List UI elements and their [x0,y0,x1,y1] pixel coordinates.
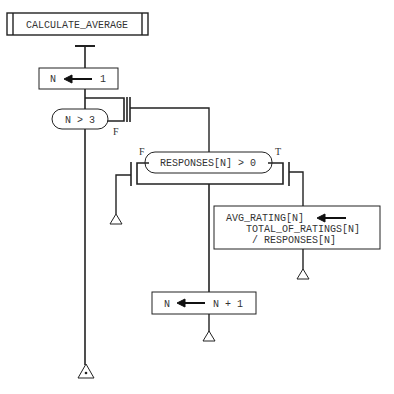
title-text: CALCULATE_AVERAGE [26,20,128,31]
branch-false-label: F [139,146,145,157]
branch-true-label: T [275,146,281,157]
loop-condition-text: N > 3 [65,115,95,126]
avg-rhs-line1: TOTAL_OF_RATINGS[N] [246,224,360,235]
init-lhs: N [50,74,56,85]
loop-body-end-triangle [203,331,215,341]
branch-condition-text: RESPONSES[N] > 0 [160,158,256,169]
flowchart: CALCULATE_AVERAGE N 1 N > 3 F RESPONSES[… [0,0,394,394]
false-branch-end-triangle [110,214,122,224]
loop-exit-label: F [113,126,119,137]
increment-rhs: N + 1 [213,299,243,310]
increment-lhs: N [164,299,170,310]
end-dot-icon [85,372,88,375]
avg-lhs: AVG_RATING[N] [226,213,304,224]
end-triangle [78,364,94,378]
init-rhs: 1 [100,74,106,85]
true-branch-end-triangle [297,269,309,279]
avg-rhs-line2: / RESPONSES[N] [252,235,336,246]
